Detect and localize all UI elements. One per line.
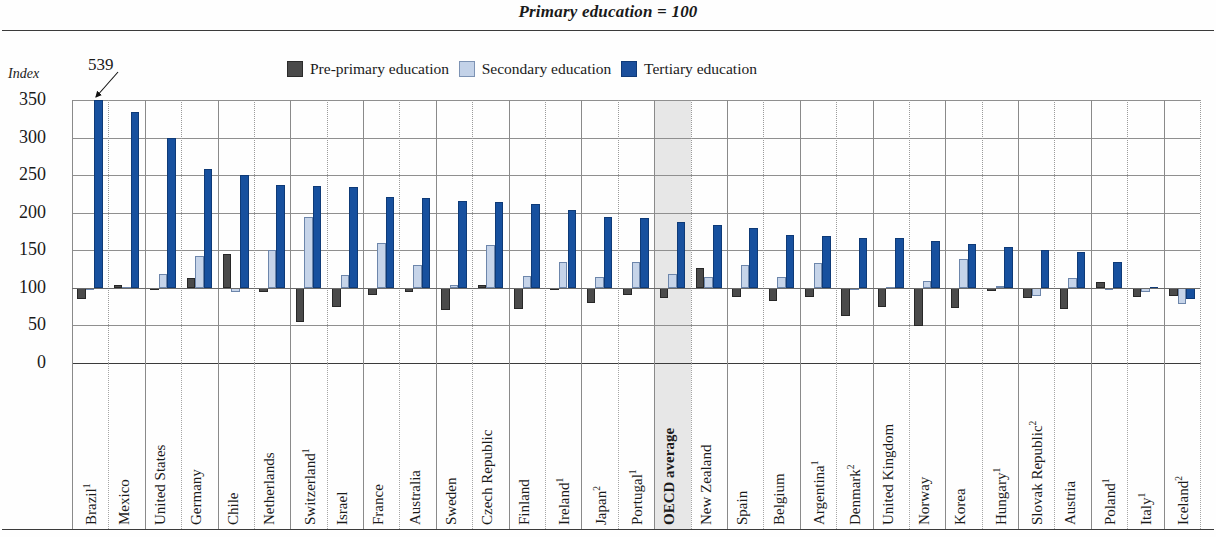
column-separator (763, 100, 764, 363)
chart-legend: Pre-primary educationSecondary education… (287, 58, 757, 80)
bar-sec (668, 274, 677, 288)
bar-ter (1077, 252, 1086, 288)
bar-ter (276, 185, 285, 288)
column-separator (1127, 100, 1128, 363)
bar-ter (640, 218, 649, 288)
bar-ter (349, 187, 358, 288)
x-label-separator (218, 363, 219, 529)
x-axis-label-denmark: Denmark2 (842, 375, 860, 525)
bottom-rule (2, 529, 1214, 530)
x-axis-label-ireland: Ireland1 (551, 375, 569, 525)
x-label-separator (181, 363, 182, 529)
x-axis-label-australia: Australia (406, 375, 424, 525)
bar-ter (131, 112, 140, 288)
column-separator (654, 100, 655, 363)
x-axis-label-hungary: Hungary1 (988, 375, 1006, 525)
bar-pre (368, 288, 377, 295)
column-separator (1054, 100, 1055, 363)
top-rule (2, 30, 1214, 31)
x-axis-label-slovakrepublic: Slovak Republic2 (1024, 375, 1042, 525)
x-axis-label-unitedkingdom: United Kingdom (879, 375, 897, 525)
bar-pre (878, 288, 887, 307)
column-separator (691, 100, 692, 363)
bar-ter (386, 197, 395, 288)
y-axis-tick-150: 150 (0, 239, 46, 260)
column-separator (363, 100, 364, 363)
bar-sec (159, 274, 168, 288)
bar-pre (1060, 288, 1069, 309)
x-axis-label-austria: Austria (1061, 375, 1079, 525)
bar-sec (777, 277, 786, 288)
bar-sec (523, 276, 532, 288)
column-separator (1018, 100, 1019, 363)
x-label-separator (618, 363, 619, 529)
legend-item-ter: Tertiary education (621, 60, 757, 78)
bar-sec (486, 245, 495, 288)
x-label-separator (1164, 363, 1165, 529)
column-separator (909, 100, 910, 363)
x-label-separator (145, 363, 146, 529)
bar-pre (332, 288, 341, 308)
annotation-value: 539 (88, 55, 114, 75)
x-label-separator (72, 363, 73, 529)
bar-sec (814, 263, 823, 288)
bar-ter (204, 169, 213, 288)
x-label-separator (1127, 363, 1128, 529)
x-axis-label-finland: Finland (515, 375, 533, 525)
bar-sec (195, 256, 204, 288)
x-axis-label-czechrepublic: Czech Republic (478, 375, 496, 525)
x-label-separator (327, 363, 328, 529)
bar-ter (458, 201, 467, 288)
bar-pre (1169, 288, 1178, 296)
bar-sec (704, 277, 713, 288)
x-axis-label-japan: Japan2 (588, 375, 606, 525)
bar-ter (968, 244, 977, 288)
x-label-separator (836, 363, 837, 529)
bar-pre (769, 288, 778, 302)
bar-pre (914, 288, 923, 326)
column-separator (1091, 100, 1092, 363)
column-separator (509, 100, 510, 363)
chart-figure: Primary education = 100 Pre-primary educ… (0, 0, 1216, 537)
x-label-separator (254, 363, 255, 529)
x-axis-label-italy: Italy1 (1133, 375, 1151, 525)
x-label-separator (509, 363, 510, 529)
legend-label: Secondary education (482, 60, 612, 78)
bar-ter (94, 100, 103, 288)
y-axis-tick-300: 300 (0, 127, 46, 148)
y-axis-unit-label: Index (8, 66, 39, 82)
x-label-separator (909, 363, 910, 529)
bar-pre (841, 288, 850, 317)
bar-pre (514, 288, 523, 309)
x-label-separator (982, 363, 983, 529)
bar-sec (413, 265, 422, 288)
x-label-separator (800, 363, 801, 529)
bar-ter (895, 238, 904, 288)
column-separator (800, 100, 801, 363)
column-separator (436, 100, 437, 363)
bar-pre (1023, 288, 1032, 298)
x-axis-label-iceland: Iceland2 (1170, 375, 1188, 525)
x-axis-label-mexico: Mexico (115, 375, 133, 525)
bar-ter (1041, 250, 1050, 288)
x-axis-label-norway: Norway (915, 375, 933, 525)
x-axis-label-portugal: Portugal1 (624, 375, 642, 525)
bar-ter (786, 235, 795, 288)
x-label-separator (581, 363, 582, 529)
legend-swatch-sec-icon (459, 61, 475, 77)
x-label-separator (108, 363, 109, 529)
x-axis-label-netherlands: Netherlands (260, 375, 278, 525)
bar-pre (660, 288, 669, 298)
x-label-separator (727, 363, 728, 529)
bar-ter (167, 138, 176, 288)
column-separator (472, 100, 473, 363)
bar-pre (441, 288, 450, 311)
x-axis-label-spain: Spain (733, 375, 751, 525)
x-label-separator (545, 363, 546, 529)
column-separator (218, 100, 219, 363)
x-label-separator (1054, 363, 1055, 529)
bar-sec (1068, 278, 1077, 288)
x-axis-label-brazil: Brazil1 (78, 375, 96, 525)
bar-sec (741, 265, 750, 288)
x-label-separator (945, 363, 946, 529)
